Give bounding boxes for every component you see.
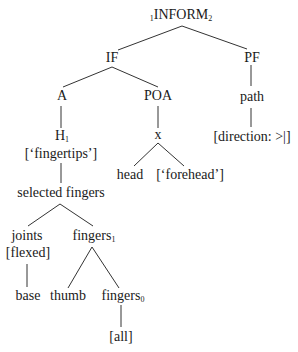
edge-x-forehead xyxy=(158,143,184,166)
x-label: x xyxy=(155,127,162,142)
edge-selected-joints xyxy=(28,204,60,226)
edge-root-if xyxy=(118,26,182,50)
if-label: IF xyxy=(106,50,118,65)
edge-root-pf xyxy=(182,26,247,49)
edge-selected-fingers1 xyxy=(60,204,93,226)
node-forehead: [‘forehead’] xyxy=(156,168,224,182)
node-selected-fingers: selected fingers xyxy=(17,186,104,200)
thumb-label: thumb xyxy=(50,288,86,303)
node-root-inform: 1INFORM2 xyxy=(150,8,212,26)
edge-if-poa xyxy=(112,67,158,87)
direction-label: [direction: >|] xyxy=(213,129,290,144)
poa-label: POA xyxy=(144,88,172,103)
joints-label: joints xyxy=(11,228,42,243)
node-pf: PF xyxy=(244,51,260,65)
node-fingertips: [‘fingertips’] xyxy=(25,147,97,161)
pf-label: PF xyxy=(244,50,260,65)
all-label: [all] xyxy=(109,329,132,344)
root-label: INFORM xyxy=(154,7,208,22)
edge-fingers1-thumb xyxy=(68,247,92,288)
node-if: IF xyxy=(106,51,118,65)
node-joints: joints xyxy=(11,229,42,243)
forehead-label: [‘forehead’] xyxy=(156,167,224,182)
fingers0-label: fingers xyxy=(102,288,141,303)
node-base: base xyxy=(16,289,41,303)
edge-if-a xyxy=(63,67,112,87)
h-label: H xyxy=(55,128,65,143)
path-label: path xyxy=(240,89,264,104)
fingers1-label: fingers xyxy=(73,228,112,243)
edge-x-head xyxy=(134,143,158,166)
h-subscript: 1 xyxy=(65,135,69,144)
node-x: x xyxy=(155,128,162,142)
node-fingers0: fingers0 xyxy=(102,289,145,303)
flexed-label: [flexed] xyxy=(6,245,50,260)
node-fingers1: fingers1 xyxy=(73,229,116,243)
node-a: A xyxy=(57,89,67,103)
node-direction: [direction: >|] xyxy=(213,130,290,144)
edge-fingers1-fingers0 xyxy=(92,247,119,288)
node-poa: POA xyxy=(144,89,172,103)
node-flexed: [flexed] xyxy=(6,246,50,260)
a-label: A xyxy=(57,88,67,103)
fingertips-label: [‘fingertips’] xyxy=(25,146,97,161)
node-path: path xyxy=(240,90,264,104)
node-thumb: thumb xyxy=(50,289,86,303)
node-h1: H1 xyxy=(55,129,69,143)
selected-fingers-label: selected fingers xyxy=(17,185,104,200)
fingers0-subscript: 0 xyxy=(140,295,144,304)
node-all: [all] xyxy=(109,330,132,344)
root-subscript: 2 xyxy=(208,14,212,23)
fingers1-subscript: 1 xyxy=(111,235,115,244)
base-label: base xyxy=(16,288,41,303)
node-head: head xyxy=(117,168,143,182)
head-label: head xyxy=(117,167,143,182)
